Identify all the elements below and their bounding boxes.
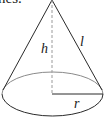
radius-label: r: [74, 96, 80, 111]
cone-diagram: h l r: [0, 0, 107, 119]
slant-label: l: [80, 34, 84, 49]
right-slant-edge: [52, 0, 102, 90]
base-front-arc: [2, 94, 103, 116]
height-label: h: [41, 41, 48, 56]
